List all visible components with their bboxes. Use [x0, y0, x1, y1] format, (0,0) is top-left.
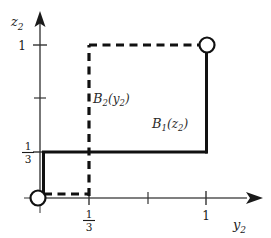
z-axis-label: z2: [10, 14, 24, 32]
b2-label-script-b: B: [92, 91, 103, 106]
y-tick-label-one-third-numerator: 1: [86, 208, 93, 220]
y-tick-label-one-third-denominator: 3: [86, 221, 93, 233]
b1-label-arg-open: (z: [167, 117, 179, 131]
y-axis-label: y2: [232, 217, 246, 235]
math-figure: z2 y2 1 1 3 1 3 1 B2(y2) B1(z2): [0, 0, 271, 238]
b1-label-arg-close: ): [182, 117, 188, 131]
z-axis-label-base: z: [10, 14, 18, 29]
y-axis-arrowhead: [246, 192, 263, 204]
y-tick-label-1: 1: [202, 209, 210, 223]
figure-canvas: z2 y2 1 1 3 1 3 1 B2(y2) B1(z2): [0, 0, 271, 238]
z-axis-label-sub: 2: [17, 22, 24, 32]
z-tick-label-one-third-numerator: 1: [25, 140, 32, 152]
b2-label-arg-close: ): [124, 92, 130, 106]
open-circle-origin-marker: [31, 191, 46, 206]
b2-curve-label: B2(y2): [92, 91, 130, 108]
b2-label-arg-open: (y: [108, 92, 120, 106]
z-tick-label-one-third-denominator: 3: [25, 153, 32, 165]
b1-label-script-b: B: [151, 116, 162, 131]
open-circle-one-one-marker: [200, 38, 215, 53]
y-axis-label-sub: 2: [239, 225, 246, 235]
z-tick-label-1: 1: [18, 39, 26, 53]
b1-curve-label: B1(z2): [151, 116, 188, 133]
